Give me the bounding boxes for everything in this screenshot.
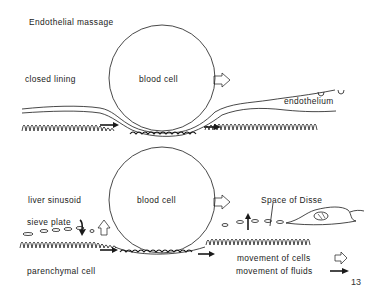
label-bottom-blood-cell: blood cell [137, 195, 176, 205]
top-microvilli-left [22, 125, 114, 131]
space-of-disse-pointer [270, 203, 273, 226]
bottom-fluid-arrow-left-icon [100, 247, 118, 253]
label-top-blood-cell: blood cell [139, 74, 178, 84]
bottom-fluid-arrow-right-icon [198, 251, 215, 257]
endothelial-cell-outline [286, 207, 364, 225]
bottom-fluid-arrow-up-icon [245, 213, 251, 230]
legend-icons [330, 252, 349, 274]
top-microvilli-right [205, 124, 317, 130]
label-sieve-plate: sieve plate [27, 217, 71, 227]
top-fluid-arrow-left-icon [100, 122, 119, 128]
label-liver-sinusoid: liver sinusoid [28, 195, 81, 205]
endothelial-cell-nucleus [314, 212, 328, 220]
label-endothelium: endothelium [284, 96, 333, 106]
legend-solid-arrow-icon [330, 268, 349, 274]
label-space-of-disse: Space of Disse [261, 195, 322, 205]
legend-movement-of-fluids: movement of fluids [236, 266, 313, 276]
endothelial-massage-diagram [0, 0, 378, 299]
legend-hollow-arrow-icon [335, 252, 347, 264]
top-cell-movement-arrow-icon [214, 73, 230, 87]
label-closed-lining: closed lining [25, 74, 76, 84]
label-parenchymal-cell: parenchymal cell [27, 266, 95, 276]
bottom-microvilli-left [20, 242, 116, 248]
sieve-plate-arrow-icon [79, 220, 86, 236]
legend-movement-of-cells: movement of cells [237, 253, 310, 263]
figure-title: Endothelial massage [29, 17, 113, 27]
bottom-microvilli-right [206, 239, 310, 245]
page-number: 13 [351, 277, 361, 287]
bottom-cell-movement-arrow-icon [214, 195, 230, 209]
bottom-upward-cell-arrow-icon [98, 220, 110, 235]
